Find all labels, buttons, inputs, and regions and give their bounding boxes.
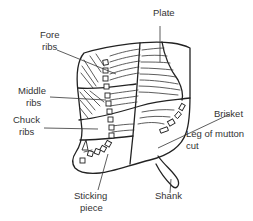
label-sticking-piece-line2: piece — [80, 202, 103, 213]
label-chuck-ribs-line1: Chuck — [13, 114, 40, 125]
label-leg-of-mutton-line2: cut — [186, 140, 199, 151]
cut-lines — [78, 42, 190, 164]
leader-lines — [44, 26, 230, 193]
label-fore-ribs-line1: Fore — [40, 29, 60, 40]
label-leg-of-mutton-line1: Leg of mutton — [186, 128, 244, 139]
label-brisket: Brisket — [214, 108, 243, 119]
label-middle-ribs-line2: ribs — [26, 97, 41, 108]
label-fore-ribs-line2: ribs — [42, 41, 57, 52]
label-sticking-piece-line1: Sticking — [74, 190, 107, 201]
label-plate: Plate — [153, 7, 175, 18]
label-chuck-ribs-line2: ribs — [19, 126, 34, 137]
plate-rib-strokes — [110, 48, 180, 132]
fore-rib-strokes — [80, 54, 104, 118]
label-shank: Shank — [155, 190, 182, 201]
vertebrae — [80, 60, 185, 163]
label-middle-ribs-line1: Middle — [18, 85, 46, 96]
